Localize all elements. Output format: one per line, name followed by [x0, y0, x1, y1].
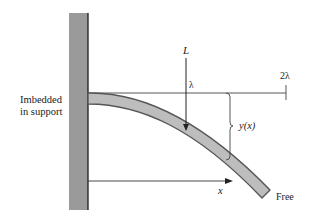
- beam: [88, 93, 270, 198]
- free-end-label: Free: [276, 191, 294, 202]
- support-label-line1: Imbedded: [20, 94, 63, 105]
- support-label-line2: in support: [20, 106, 62, 117]
- length-label: 2λ: [280, 70, 290, 81]
- load-label: L: [182, 44, 189, 56]
- x-axis-label: x: [217, 185, 223, 196]
- deflection-label: y(x): [238, 120, 256, 132]
- load-position-label: λ: [189, 80, 194, 90]
- cantilever-diagram: Imbedded in support L λ 2λ y(x) x Free: [0, 0, 312, 219]
- x-axis-arrow-head: [225, 178, 233, 184]
- wall-support: [69, 13, 88, 210]
